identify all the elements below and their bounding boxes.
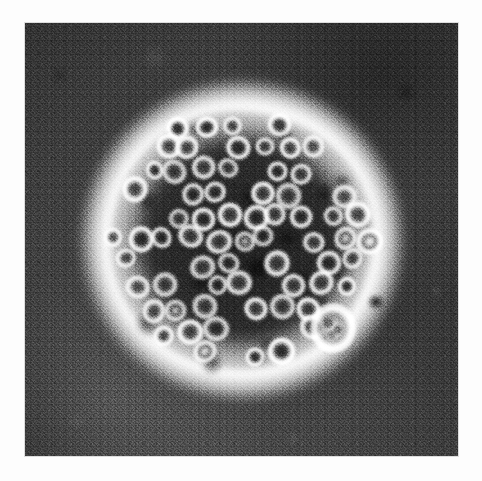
- film-grain-speckle: [25, 23, 458, 456]
- figure-caption: [25, 462, 458, 478]
- micrograph-plate: [25, 23, 458, 456]
- figure-page: [0, 0, 482, 481]
